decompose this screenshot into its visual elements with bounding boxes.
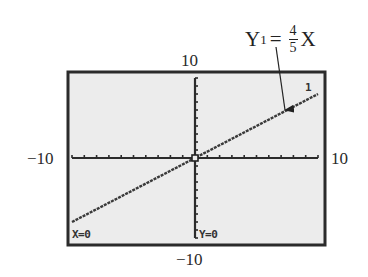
cursor-y-readout: Y=0 [199, 229, 217, 240]
trace-cursor [192, 155, 198, 161]
calculator-graph-figure: Y1 = 4 5 X 10 −10 −10 10 [0, 0, 368, 277]
cursor-x-readout: X=0 [72, 229, 90, 240]
graph-screen [0, 0, 368, 277]
graph-index-label: 1 [305, 82, 311, 93]
